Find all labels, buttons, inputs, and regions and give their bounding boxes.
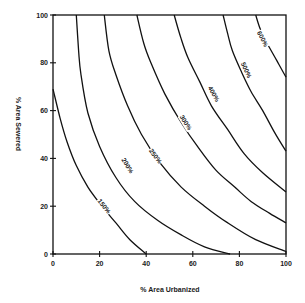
x-tick-label: 0 <box>51 260 55 267</box>
x-tick-label: 80 <box>236 260 244 267</box>
contour-600pct-label: 600% <box>256 30 270 48</box>
contour-250pct-line <box>104 15 286 252</box>
y-tick-label: 20 <box>40 203 48 210</box>
contour-500pct-label: 500% <box>240 61 253 79</box>
x-tick-label: 40 <box>142 260 150 267</box>
contour-200pct-line <box>76 15 230 254</box>
x-tick-label: 20 <box>96 260 104 267</box>
plot-frame <box>53 15 286 254</box>
contour-lines <box>53 15 286 254</box>
x-axis-title: % Area Urbanized <box>140 286 199 293</box>
x-tick-label: 100 <box>280 260 292 267</box>
contour-chart: 150%200%250%300%400%500%600% 02040608010… <box>0 0 305 303</box>
contour-600pct-line <box>256 15 286 77</box>
y-tick-label: 100 <box>36 12 48 19</box>
y-tick-label: 40 <box>40 155 48 162</box>
contour-500pct-line <box>223 15 286 151</box>
contour-labels: 150%200%250%300%400%500%600% <box>96 29 271 216</box>
y-tick-label: 60 <box>40 107 48 114</box>
contour-200pct-label: 200% <box>120 157 135 175</box>
x-tick-label: 60 <box>189 260 197 267</box>
y-tick-label: 0 <box>44 251 48 258</box>
y-axis-title: % Area Sewered <box>15 97 22 151</box>
y-tick-label: 80 <box>40 59 48 66</box>
